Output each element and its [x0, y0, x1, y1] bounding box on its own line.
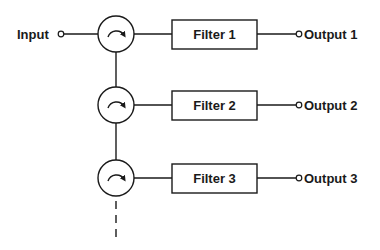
- stage-1: Filter 1Output 1: [98, 16, 357, 52]
- output-label: Output 1: [304, 27, 357, 42]
- circulator-1: [98, 16, 134, 52]
- input-label: Input: [17, 27, 49, 42]
- input-port: [58, 31, 64, 37]
- output-port-2: [296, 102, 302, 108]
- filter-label: Filter 3: [193, 171, 236, 186]
- circulator-2: [98, 87, 134, 123]
- output-port-3: [296, 175, 302, 181]
- output-label: Output 2: [304, 98, 357, 113]
- stage-3: Filter 3Output 3: [98, 160, 357, 196]
- filter-label: Filter 2: [193, 98, 236, 113]
- circulator-filter-diagram: Input Filter 1Output 1Filter 2Output 2Fi…: [0, 0, 380, 250]
- filter-label: Filter 1: [193, 27, 236, 42]
- circulator-3: [98, 160, 134, 196]
- stage-2: Filter 2Output 2: [98, 87, 357, 123]
- output-port-1: [296, 31, 302, 37]
- output-label: Output 3: [304, 171, 357, 186]
